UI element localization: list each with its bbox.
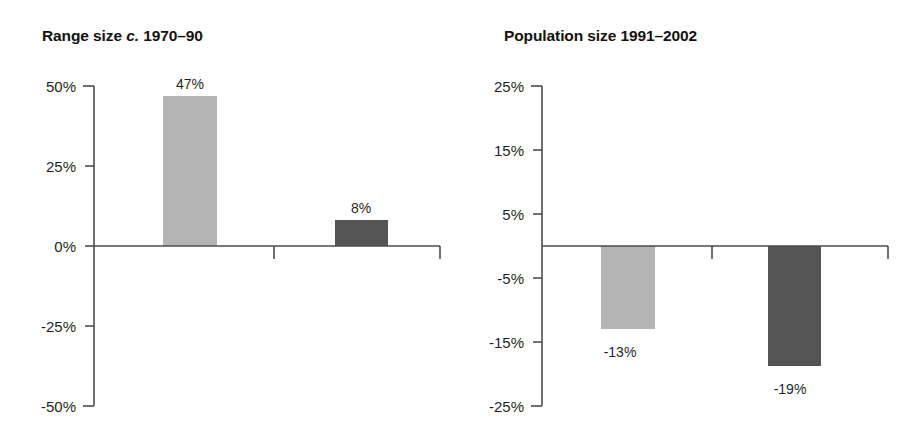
- y-tick-label-population-size-3: -5%: [460, 270, 524, 287]
- chart-panel-population-size: Population size 1991–2002: [460, 0, 919, 436]
- bar-range-size-0: [163, 96, 217, 246]
- y-tick-label-population-size-4: -15%: [460, 334, 524, 351]
- bar-value-label-range-size-1: 8%: [351, 200, 371, 216]
- y-tick-label-population-size-2: 5%: [460, 206, 524, 223]
- y-tick-label-population-size-1: 15%: [460, 142, 524, 159]
- figure-container: Range size c. 1970–90: [0, 0, 919, 436]
- plot-svg-population-size: [460, 0, 919, 436]
- y-tick-label-range-size-3: -25%: [8, 318, 76, 335]
- bar-population-size-0: [601, 246, 655, 329]
- x-axis-population-size: [542, 246, 888, 259]
- bar-value-label-population-size-1: -19%: [774, 381, 807, 397]
- plot-area-population-size: [460, 0, 919, 436]
- bar-population-size-1: [768, 246, 821, 366]
- x-axis-range-size: [94, 246, 440, 259]
- y-tick-label-range-size-1: 25%: [8, 158, 76, 175]
- y-tick-label-range-size-2: 0%: [8, 238, 76, 255]
- chart-panel-range-size: Range size c. 1970–90: [0, 0, 460, 436]
- y-tick-label-population-size-5: -25%: [460, 398, 524, 415]
- y-tick-label-range-size-4: -50%: [8, 398, 76, 415]
- y-axis-range-size: [83, 86, 94, 406]
- bar-range-size-1: [335, 220, 388, 246]
- plot-area-range-size: [0, 0, 460, 436]
- plot-svg-range-size: [0, 0, 460, 436]
- bar-value-label-range-size-0: 47%: [176, 76, 204, 92]
- y-tick-label-range-size-0: 50%: [8, 78, 76, 95]
- bar-value-label-population-size-0: -13%: [604, 344, 637, 360]
- y-tick-label-population-size-0: 25%: [460, 78, 524, 95]
- y-axis-population-size: [531, 86, 542, 406]
